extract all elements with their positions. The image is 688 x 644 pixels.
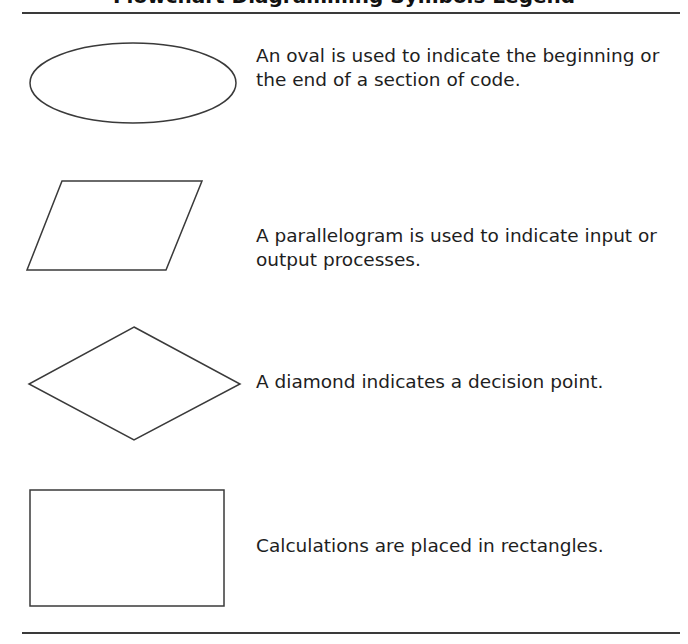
diamond-description: A diamond indicates a decision point. <box>256 370 676 394</box>
figure-title: Flowchart Diagramming Symbols Legend <box>0 0 688 8</box>
top-divider <box>22 12 680 14</box>
oval-symbol-icon <box>28 40 240 130</box>
parallelogram-description: A parallelogram is used to indicate inpu… <box>256 224 676 272</box>
rectangle-description: Calculations are placed in rectangles. <box>256 534 676 558</box>
oval-description: An oval is used to indicate the beginnin… <box>256 44 676 92</box>
rectangle-symbol-icon <box>28 488 226 610</box>
bottom-divider <box>22 632 680 634</box>
diamond-symbol-icon <box>26 324 244 444</box>
title-clip: Flowchart Diagramming Symbols Legend <box>0 0 688 9</box>
parallelogram-symbol-icon <box>24 178 208 278</box>
